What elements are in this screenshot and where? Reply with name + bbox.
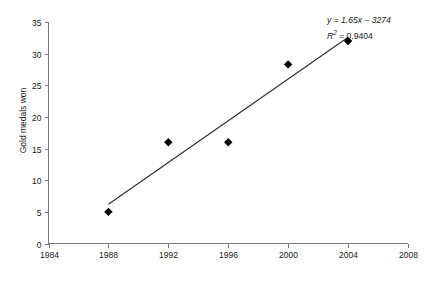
y-tick-label: 0: [37, 240, 42, 250]
x-tick-marks: [50, 244, 409, 248]
regression-line: [108, 37, 348, 204]
chart-plot-area: 05101520253035 1984198819921996200020042…: [0, 0, 428, 282]
data-point-markers: [104, 37, 352, 216]
y-tick-label: 35: [32, 18, 42, 28]
scatter-chart: 05101520253035 1984198819921996200020042…: [0, 0, 428, 282]
trendline: [108, 37, 348, 204]
y-tick-label: 30: [32, 50, 42, 60]
data-point-marker: [224, 138, 232, 146]
data-point-marker: [104, 208, 112, 216]
x-tick-label: 2000: [279, 250, 298, 260]
y-tick-label: 5: [37, 208, 42, 218]
data-point-marker: [284, 60, 292, 68]
r-squared-value: = 0.9404: [337, 30, 373, 40]
x-tick-label: 1988: [99, 250, 118, 260]
regression-equation: y = 1.65x – 3274: [327, 14, 391, 27]
x-tick-label: 1984: [40, 250, 59, 260]
y-tick-labels: 05101520253035: [32, 18, 42, 250]
y-axis-label: Gold medals won: [16, 0, 30, 243]
y-tick-label: 20: [32, 113, 42, 123]
x-tick-label: 2008: [399, 250, 418, 260]
y-tick-marks: [45, 23, 49, 245]
x-tick-label: 1996: [219, 250, 238, 260]
regression-annotation: y = 1.65x – 3274 R2 = 0.9404: [327, 14, 391, 42]
r-squared-annotation: R2 = 0.9404: [327, 27, 391, 42]
y-tick-label: 10: [32, 176, 42, 186]
x-tick-label: 2004: [339, 250, 358, 260]
data-point-marker: [164, 138, 172, 146]
y-tick-label: 25: [32, 81, 42, 91]
x-tick-labels: 1984198819921996200020042008: [40, 250, 418, 260]
x-tick-label: 1992: [159, 250, 178, 260]
axes-group: [49, 22, 409, 244]
y-tick-label: 15: [32, 145, 42, 155]
